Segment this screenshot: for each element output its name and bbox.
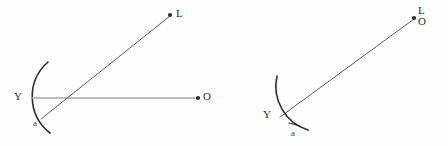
right-label-lo-stack: L O (418, 5, 426, 27)
left-label-o: O (203, 91, 211, 102)
right-label-o: O (418, 16, 426, 27)
ray-diagram-svg (0, 0, 448, 146)
left-diagram-group (32, 13, 200, 133)
left-label-angle-a: a (33, 119, 37, 128)
right-mirror-arc (276, 76, 308, 130)
figure-canvas-container: Y a L O Y a L O (0, 0, 448, 146)
right-point-lo-dot (412, 16, 416, 20)
left-label-l: L (176, 8, 183, 19)
right-diagram-group (276, 16, 416, 130)
left-label-y: Y (14, 91, 22, 102)
right-diagonal-ray (280, 19, 414, 117)
left-diagonal-ray (41, 16, 170, 119)
right-label-angle-a: a (291, 129, 295, 138)
right-label-y: Y (263, 109, 271, 120)
left-point-o-dot (196, 96, 200, 100)
left-point-l-dot (168, 13, 172, 17)
